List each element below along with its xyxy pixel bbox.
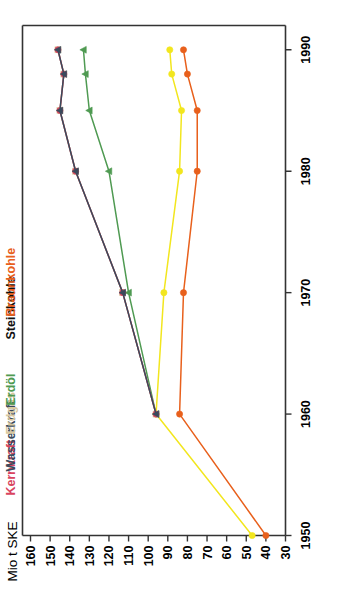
series-line [156,49,252,535]
year-tick-label: 1950 [298,521,312,549]
data-point-marker [176,168,182,174]
data-point-marker [194,107,200,113]
series-line [57,49,155,413]
series-braunkohle [176,46,269,538]
data-point-marker [160,289,166,295]
data-point-marker [180,289,186,295]
series-line [83,49,156,413]
data-point-marker [194,168,200,174]
value-tick-label: 30 [279,545,293,559]
series-kernkraft [54,46,158,416]
year-tick-label: 1990 [298,35,312,63]
value-tick-label: 40 [259,545,273,559]
data-point-marker [176,410,182,416]
value-tick-label: 110 [122,545,136,565]
line-chart-svg: 1601501401301201101009080706050403019501… [0,0,342,591]
series-line [179,49,265,535]
data-point-marker [184,70,190,76]
data-point-marker [178,107,184,113]
series-erdgas [54,46,158,416]
value-tick-label: 80 [180,545,194,559]
rotated-chart-canvas: 1601501401301201101009080706050403019501… [0,0,342,591]
data-point-marker [166,46,172,52]
value-tick-label: 100 [141,545,155,566]
year-tick-label: 1980 [298,157,312,185]
year-tick-label: 1960 [298,400,312,428]
series-erd-l [79,46,158,417]
chart-figure: 1601501401301201101009080706050403019501… [0,0,342,591]
data-point-marker [79,46,85,53]
data-point-marker [168,70,174,76]
value-tick-label: 120 [102,545,116,566]
value-tick-label: 70 [200,545,214,559]
value-tick-label: 130 [82,545,96,566]
series-wasserkraft [54,46,158,417]
unit-axis-label: Mio t SKE [4,521,19,581]
plot-wrapper: 1601501401301201101009080706050403019501… [0,0,342,591]
data-point-marker [180,46,186,52]
year-tick-label: 1970 [298,278,312,306]
value-tick-label: 50 [239,545,253,559]
legend-label-braunkohle: Braunkohle [3,247,17,316]
value-tick-label: 90 [161,545,175,559]
value-tick-label: 150 [43,545,57,566]
value-tick-label: 140 [63,545,77,566]
value-tick-label: 60 [220,545,234,559]
series-steinkohle [152,46,254,538]
value-tick-label: 160 [24,545,38,566]
legend-label-erdöl: Erdöl [3,373,17,405]
